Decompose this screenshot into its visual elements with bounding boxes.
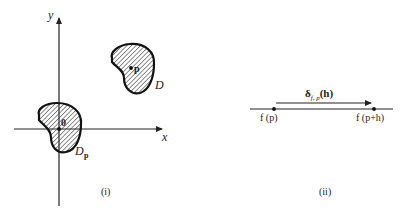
delta-arrow-label: δf, p(h) <box>305 87 333 102</box>
region-Dp-subscript: p <box>84 151 89 160</box>
point-p-dot <box>129 66 133 70</box>
caption-ii: (ii) <box>319 186 331 198</box>
point-fph-label: f (p+h) <box>356 112 384 124</box>
region-D-label: D <box>154 78 164 92</box>
diagram-canvas: y x p D 0 D p (i) δf, p(h) f (p) f (p+h) <box>0 0 402 216</box>
caption-i: (i) <box>101 186 110 198</box>
point-fph-dot <box>372 107 376 111</box>
x-axis-label: x <box>161 130 168 144</box>
region-Dp-label: D <box>74 144 84 158</box>
panel-i: y x p D 0 D p (i) <box>14 8 168 206</box>
point-p-label: p <box>134 63 140 74</box>
point-fp-label: f (p) <box>260 112 278 124</box>
panel-ii: δf, p(h) f (p) f (p+h) (ii) <box>250 87 393 198</box>
delta-argument: (h) <box>320 87 334 100</box>
y-axis-label: y <box>47 8 54 22</box>
point-fp-dot <box>272 107 276 111</box>
origin-label: 0 <box>61 117 66 128</box>
region-D <box>112 44 154 93</box>
